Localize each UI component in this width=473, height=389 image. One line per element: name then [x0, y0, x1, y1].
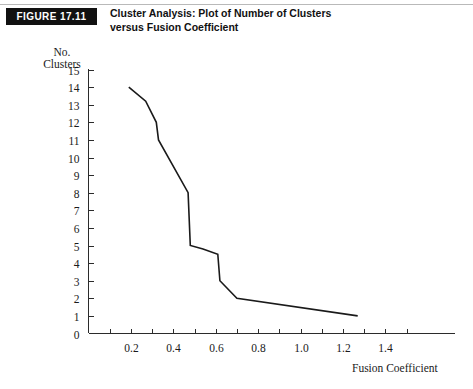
y-axis-tick-label: 9	[74, 170, 80, 182]
x-axis-tick-label: 1.0	[294, 342, 309, 354]
y-axis-tick-label: 5	[74, 241, 80, 253]
y-axis-tick-label: 11	[68, 135, 79, 147]
x-axis-tick-labels: 0.20.40.60.81.01.21.4	[124, 342, 393, 354]
y-axis-tick-label: 14	[68, 82, 80, 94]
y-axis-tick-label: 12	[68, 117, 80, 129]
y-axis-tick-label: 8	[74, 188, 80, 200]
y-axis-tick-label: 4	[74, 258, 80, 270]
x-axis-title: Fusion Coefficient	[352, 362, 439, 374]
x-axis-tick-label: 0.2	[124, 342, 139, 354]
y-axis-tick-label: 3	[74, 276, 80, 288]
y-axis-tick-label: 0	[74, 329, 80, 341]
data-series-group	[129, 87, 358, 316]
y-axis-tick-label: 13	[68, 100, 80, 112]
x-axis-tick-label: 0.4	[166, 342, 181, 354]
x-axis-ticks	[111, 329, 408, 334]
y-axis-tick-label: 2	[74, 293, 80, 305]
x-axis-tick-label: 0.6	[209, 342, 224, 354]
y-axis-tick-label: 6	[74, 223, 80, 235]
y-axis-tick-labels: 0123456789101112131415	[68, 65, 80, 341]
y-axis-ticks	[89, 71, 94, 317]
x-axis-tick-label: 1.4	[378, 342, 393, 354]
x-axis-tick-label: 1.2	[336, 342, 351, 354]
x-axis-tick-label: 0.8	[251, 342, 266, 354]
y-axis-tick-label: 1	[74, 311, 80, 323]
x-axis: 0.20.40.60.81.01.21.4	[89, 329, 456, 354]
y-axis-title-line-2: Clusters	[43, 58, 81, 70]
y-axis-title-line-1: No.	[54, 46, 71, 58]
y-axis: 0123456789101112131415	[68, 65, 94, 341]
y-axis-tick-label: 7	[74, 205, 80, 217]
y-axis-tick-label: 10	[68, 153, 80, 165]
data-line-clusters	[129, 87, 358, 316]
chart-plot-area: 0123456789101112131415 0.20.40.60.81.01.…	[0, 0, 473, 389]
